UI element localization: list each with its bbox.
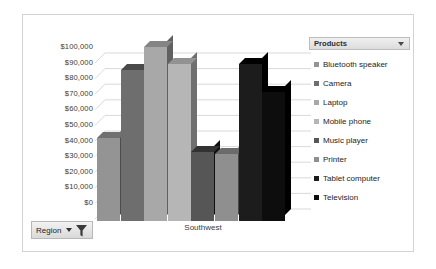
pivot-chart-screenshot: $100,000$90,000$80,000$70,000$60,000$50,… xyxy=(0,0,436,269)
funnel-icon[interactable] xyxy=(75,224,88,242)
bar[interactable] xyxy=(215,154,238,221)
legend-swatch-icon xyxy=(314,157,319,162)
bar-series-container xyxy=(97,45,311,221)
y-axis-tick-label: $0 xyxy=(27,199,93,207)
bar[interactable] xyxy=(144,47,167,221)
legend-list: Bluetooth speakerCameraLaptopMobile phon… xyxy=(309,55,410,207)
plot-area: $100,000$90,000$80,000$70,000$60,000$50,… xyxy=(23,15,323,215)
y-axis-tick-label: $10,000 xyxy=(27,183,93,191)
region-slicer-label: Region xyxy=(36,226,61,235)
chevron-down-icon[interactable] xyxy=(66,228,72,232)
bar-face xyxy=(191,152,214,221)
legend-item-label: Camera xyxy=(323,79,351,88)
legend-swatch-icon xyxy=(314,100,319,105)
bar[interactable] xyxy=(239,64,262,221)
legend-item-label: Tablet computer xyxy=(323,174,380,183)
y-axis-tick-label: $60,000 xyxy=(27,105,93,113)
legend-swatch-icon xyxy=(314,62,319,67)
y-axis-tick-label: $100,000 xyxy=(27,43,93,51)
products-slicer-label: Products xyxy=(314,39,347,48)
bar-face xyxy=(144,47,167,221)
legend-item-label: Bluetooth speaker xyxy=(323,60,388,69)
bar-face xyxy=(239,64,262,221)
legend-item[interactable]: Laptop xyxy=(309,93,410,112)
region-slicer-button[interactable]: Region xyxy=(31,221,93,239)
category-axis-label: Southwest xyxy=(95,223,311,232)
legend-item[interactable]: Mobile phone xyxy=(309,112,410,131)
y-axis-tick-label: $70,000 xyxy=(27,90,93,98)
legend-item[interactable]: Printer xyxy=(309,150,410,169)
legend-item-label: Mobile phone xyxy=(323,117,371,126)
y-axis-tick-label: $20,000 xyxy=(27,168,93,176)
legend-swatch-icon xyxy=(314,119,319,124)
bar-face xyxy=(262,92,285,221)
bar[interactable] xyxy=(121,70,144,221)
legend-item-label: Printer xyxy=(323,155,347,164)
y-axis-tick-label: $30,000 xyxy=(27,152,93,160)
bar-face xyxy=(121,70,144,221)
y-axis: $100,000$90,000$80,000$70,000$60,000$50,… xyxy=(27,43,93,215)
legend-item[interactable]: Bluetooth speaker xyxy=(309,55,410,74)
legend-swatch-icon xyxy=(314,81,319,86)
bar-side xyxy=(285,80,291,215)
legend-item[interactable]: Camera xyxy=(309,74,410,93)
legend-item[interactable]: Television xyxy=(309,188,410,207)
legend-swatch-icon xyxy=(314,176,319,181)
legend-swatch-icon xyxy=(314,195,319,200)
y-axis-tick-label: $40,000 xyxy=(27,137,93,145)
bar[interactable] xyxy=(191,152,214,221)
bar[interactable] xyxy=(97,138,120,221)
legend-item-label: Television xyxy=(323,193,358,202)
chart-frame: $100,000$90,000$80,000$70,000$60,000$50,… xyxy=(22,14,414,252)
products-slicer-header[interactable]: Products xyxy=(309,37,410,50)
bar[interactable] xyxy=(168,64,191,221)
y-axis-tick-label: $90,000 xyxy=(27,59,93,67)
bar-face xyxy=(215,154,238,221)
products-slicer[interactable]: Products Bluetooth speakerCameraLaptopMo… xyxy=(309,37,410,209)
bar-face xyxy=(168,64,191,221)
y-axis-tick-label: $80,000 xyxy=(27,74,93,82)
chevron-down-icon[interactable] xyxy=(398,42,404,46)
y-axis-tick-label: $50,000 xyxy=(27,121,93,129)
legend-swatch-icon xyxy=(314,138,319,143)
legend-item-label: Music player xyxy=(323,136,368,145)
legend-item-label: Laptop xyxy=(323,98,347,107)
bar[interactable] xyxy=(262,92,285,221)
bar-face xyxy=(97,138,120,221)
legend-item[interactable]: Music player xyxy=(309,131,410,150)
legend-item[interactable]: Tablet computer xyxy=(309,169,410,188)
